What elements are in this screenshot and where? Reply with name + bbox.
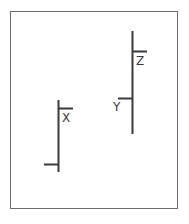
label-z: Z — [136, 55, 144, 67]
diagram-frame-border — [10, 11, 178, 209]
diagram-canvas: X Y Z — [0, 0, 189, 224]
label-x: X — [62, 112, 70, 124]
label-y: Y — [113, 101, 120, 113]
